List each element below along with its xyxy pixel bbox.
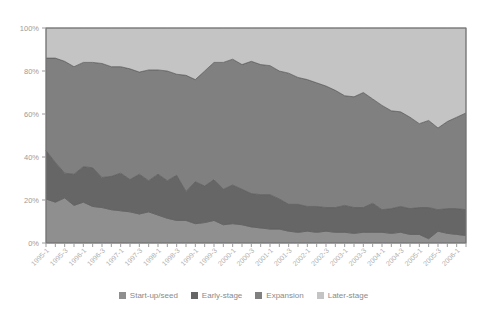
legend-swatch-icon bbox=[191, 292, 198, 299]
legend-item-2[interactable]: Early-stage bbox=[191, 291, 242, 300]
legend-item-1[interactable]: Start-up/seed bbox=[119, 291, 178, 300]
x-tick-label: 2000-3 bbox=[235, 247, 255, 267]
x-tick-label: 2003-1 bbox=[329, 247, 349, 267]
x-tick-label: 1995-3 bbox=[49, 247, 69, 267]
x-tick-label: 2006-1 bbox=[441, 247, 461, 267]
legend-swatch-icon bbox=[255, 292, 262, 299]
legend-item-3[interactable]: Expansion bbox=[255, 291, 303, 300]
x-tick-label: 2001-3 bbox=[273, 247, 293, 267]
legend-item-4[interactable]: Later-stage bbox=[317, 291, 368, 300]
x-tick-label: 2003-3 bbox=[347, 247, 367, 267]
y-axis: 0%20%40%60%80%100% bbox=[20, 24, 46, 248]
stacked-area-chart: 0%20%40%60%80%100%1995-11995-31996-11996… bbox=[0, 0, 487, 315]
x-tick-label: 1996-1 bbox=[67, 247, 87, 267]
y-tick-label: 100% bbox=[20, 24, 40, 33]
x-tick-label: 1999-1 bbox=[179, 247, 199, 267]
chart-legend: Start-up/seedEarly-stageExpansionLater-s… bbox=[0, 291, 487, 300]
y-tick-label: 60% bbox=[24, 110, 39, 119]
x-tick-label: 1998-3 bbox=[161, 247, 181, 267]
x-tick-label: 1998-1 bbox=[142, 247, 162, 267]
x-tick-label: 2005-1 bbox=[403, 247, 423, 267]
x-tick-label: 2000-1 bbox=[217, 247, 237, 267]
y-tick-label: 20% bbox=[24, 196, 39, 205]
x-axis: 1995-11995-31996-11996-31997-11997-31998… bbox=[30, 243, 466, 267]
x-tick-label: 1997-1 bbox=[105, 247, 125, 267]
y-tick-label: 80% bbox=[24, 67, 39, 76]
x-tick-label: 2001-1 bbox=[254, 247, 274, 267]
legend-label: Start-up/seed bbox=[130, 291, 178, 300]
x-tick-label: 2005-3 bbox=[422, 247, 442, 267]
x-tick-label: 2002-3 bbox=[310, 247, 330, 267]
legend-label: Early-stage bbox=[202, 291, 242, 300]
x-tick-label: 2002-1 bbox=[291, 247, 311, 267]
x-tick-label: 1996-3 bbox=[86, 247, 106, 267]
x-tick-label: 1997-3 bbox=[123, 247, 143, 267]
x-tick-label: 2004-1 bbox=[366, 247, 386, 267]
legend-swatch-icon bbox=[317, 292, 324, 299]
x-tick-label: 2004-3 bbox=[385, 247, 405, 267]
chart-canvas: 0%20%40%60%80%100%1995-11995-31996-11996… bbox=[0, 0, 487, 315]
chart-areas bbox=[46, 28, 466, 243]
y-tick-label: 0% bbox=[28, 239, 39, 248]
legend-swatch-icon bbox=[119, 292, 126, 299]
legend-label: Expansion bbox=[266, 291, 303, 300]
x-tick-label: 1999-3 bbox=[198, 247, 218, 267]
y-tick-label: 40% bbox=[24, 153, 39, 162]
legend-label: Later-stage bbox=[328, 291, 368, 300]
x-tick-label: 1995-1 bbox=[30, 247, 50, 267]
